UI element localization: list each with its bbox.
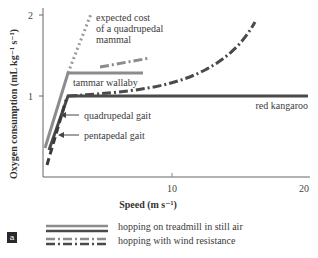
- x-tick-label-20: 20: [299, 183, 309, 194]
- legend-still-air-label: hopping on treadmill in still air: [118, 221, 243, 232]
- x-axis-label: Speed (m s⁻¹): [119, 199, 177, 211]
- chart: 2 1 10 20 Speed (m s⁻¹) Oxygen consumpti…: [0, 0, 318, 258]
- pentapedal-arrowhead-icon: [58, 132, 64, 138]
- expected-cost-line: [68, 14, 91, 73]
- pentapedal-gait-label: pentapedal gait: [84, 130, 145, 141]
- red-kangaroo-label: red kangaroo: [256, 100, 308, 111]
- expected-cost-label-1: expected cost: [96, 12, 150, 23]
- legend-wind-label: hopping with wind resistance: [118, 235, 235, 246]
- expected-cost-label-2: of a quadrupedal: [96, 23, 163, 34]
- quadrupedal-gait-label: quadrupedal gait: [84, 110, 151, 121]
- y-tick-label-2: 2: [28, 10, 33, 21]
- expected-cost-label-3: mammal: [96, 34, 131, 45]
- tammar-wind-line: [100, 58, 150, 67]
- tammar-wallaby-label: tammar wallaby: [73, 77, 138, 88]
- x-tick-label-10: 10: [167, 183, 177, 194]
- y-axis-label: Oxygen consumption (mL kg⁻¹ s⁻¹): [8, 29, 20, 179]
- panel-label-badge: a: [7, 232, 17, 243]
- y-tick-label-1: 1: [28, 91, 33, 102]
